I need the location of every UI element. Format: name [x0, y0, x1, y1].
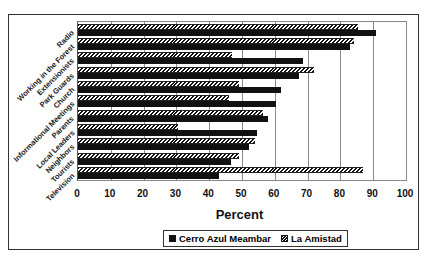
x-axis-label: Percent [0, 207, 429, 222]
bar-cerro-azul-meambar [78, 173, 219, 179]
gridline [406, 22, 407, 180]
x-tick-label: 60 [259, 188, 289, 199]
bar-cerro-azul-meambar [78, 101, 276, 107]
x-tick-label: 70 [292, 188, 322, 199]
legend-item-cerro-azul: Cerro Azul Meambar [169, 233, 271, 244]
bar-cerro-azul-meambar [78, 130, 257, 136]
bar-cerro-azul-meambar [78, 87, 281, 93]
hatched-swatch-icon [281, 235, 288, 242]
legend: Cerro Azul Meambar La Amistad [163, 230, 348, 247]
legend-item-la-amistad: La Amistad [281, 233, 342, 244]
x-tick-label: 90 [357, 188, 387, 199]
bar-cerro-azul-meambar [78, 58, 303, 64]
bar-cerro-azul-meambar [78, 44, 350, 50]
x-tick-label: 30 [160, 188, 190, 199]
bar-cerro-azul-meambar [78, 159, 231, 165]
legend-label: La Amistad [291, 233, 342, 244]
x-tick-label: 50 [226, 188, 256, 199]
x-tick-label: 40 [193, 188, 223, 199]
plot-area [77, 21, 407, 181]
bar-cerro-azul-meambar [78, 73, 299, 79]
x-tick-label: 20 [128, 188, 158, 199]
x-tick-label: 100 [390, 188, 420, 199]
bar-cerro-azul-meambar [78, 116, 268, 122]
x-tick-label: 10 [95, 188, 125, 199]
bar-cerro-azul-meambar [78, 30, 376, 36]
bar-cerro-azul-meambar [78, 144, 249, 150]
x-tick-label: 80 [324, 188, 354, 199]
gridline [373, 22, 374, 180]
solid-swatch-icon [169, 235, 176, 242]
x-tick-label: 0 [62, 188, 92, 199]
legend-label: Cerro Azul Meambar [179, 233, 271, 244]
